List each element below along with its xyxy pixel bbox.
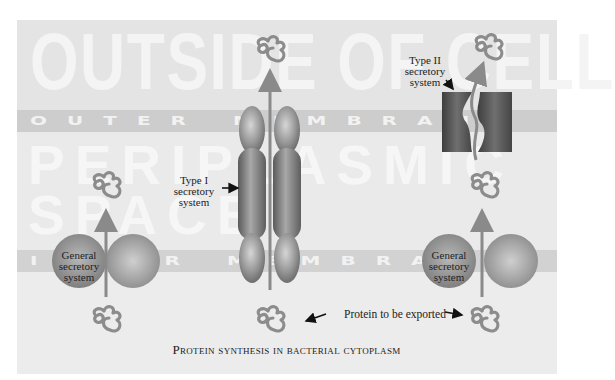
exported-protein-type2-outside [476, 35, 502, 59]
general-secretory-label-left: General secretory system [48, 250, 110, 283]
protein-left-periplasm [94, 173, 120, 197]
protein-pointer-left [306, 314, 326, 321]
type2-label: Type II secretory system [400, 55, 450, 88]
type2-secretory-system [442, 72, 512, 160]
exported-protein-type1-outside [258, 37, 284, 61]
protein-left-cytoplasm [94, 307, 120, 331]
general-secretory-label-right: General secretory system [418, 250, 480, 283]
protein-type1-cytoplasm [258, 307, 284, 331]
cytoplasm-caption: Protein synthesis in bacterial cytoplasm [0, 342, 573, 358]
protein-right-periplasm [472, 173, 498, 197]
type1-label: Type I secretory system [165, 175, 223, 208]
type1-secretory-system [238, 80, 301, 290]
protein-right-cytoplasm [472, 307, 498, 331]
protein-to-be-exported-label: Protein to be exported [330, 309, 460, 320]
